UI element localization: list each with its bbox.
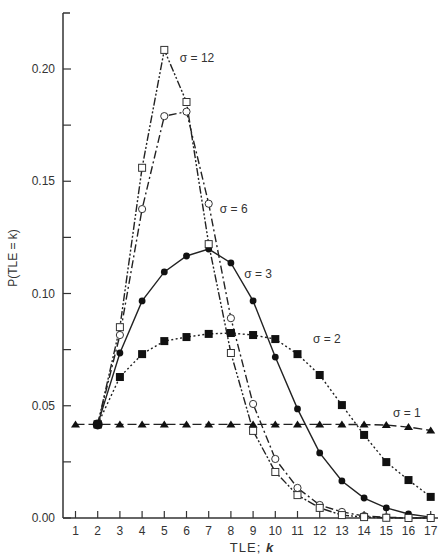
open-square-marker bbox=[294, 492, 301, 499]
series-line bbox=[98, 333, 431, 497]
square-marker bbox=[338, 401, 346, 409]
series-line bbox=[98, 249, 431, 517]
series-annotation: σ = 2 bbox=[313, 332, 341, 346]
series-annotation: σ = 6 bbox=[220, 202, 248, 216]
y-tick-label: 0.00 bbox=[32, 511, 56, 525]
open-circle-marker bbox=[139, 205, 146, 212]
dot-marker bbox=[272, 354, 279, 361]
open-square-marker bbox=[139, 164, 146, 171]
square-marker bbox=[160, 337, 168, 345]
dot-marker bbox=[183, 253, 190, 260]
x-tick-label: 11 bbox=[291, 524, 304, 538]
dot-marker bbox=[117, 350, 124, 357]
dot-marker bbox=[139, 298, 146, 305]
y-tick-label: 0.20 bbox=[32, 62, 56, 76]
series-line bbox=[98, 50, 431, 518]
x-tick-label: 12 bbox=[313, 524, 327, 538]
square-marker bbox=[116, 373, 124, 381]
open-square-marker bbox=[161, 46, 168, 53]
series-annotation: σ = 12 bbox=[180, 51, 215, 65]
open-square-marker bbox=[272, 468, 279, 475]
x-tick-label: 16 bbox=[402, 524, 416, 538]
x-tick-label: 17 bbox=[424, 524, 438, 538]
open-square-marker bbox=[116, 324, 123, 331]
open-square-marker bbox=[316, 504, 323, 511]
dot-marker bbox=[228, 260, 235, 267]
probability-chart: 0.000.050.100.150.2012345678910111213141… bbox=[0, 0, 445, 557]
series-markers bbox=[71, 46, 435, 521]
x-tick-label: 14 bbox=[357, 524, 371, 538]
square-marker bbox=[227, 329, 235, 337]
x-tick-label: 10 bbox=[269, 524, 283, 538]
x-axis-label: TLE; k bbox=[230, 540, 274, 555]
square-marker bbox=[183, 333, 191, 341]
open-square-marker bbox=[361, 514, 368, 521]
x-tick-label: 2 bbox=[94, 524, 101, 538]
square-marker bbox=[294, 350, 302, 358]
annotations: σ = 12σ = 6σ = 3σ = 2σ = 1 bbox=[180, 51, 421, 420]
square-marker bbox=[316, 371, 324, 379]
open-circle-marker bbox=[205, 200, 212, 207]
y-tick-label: 0.05 bbox=[32, 399, 56, 413]
series-annotation: σ = 1 bbox=[393, 406, 421, 420]
open-square-marker bbox=[205, 241, 212, 248]
y-axis-label: P(TLE = k) bbox=[6, 229, 20, 287]
x-tick-label: 4 bbox=[139, 524, 146, 538]
open-circle-marker bbox=[294, 484, 301, 491]
x-tick-label: 7 bbox=[205, 524, 212, 538]
common-start-point bbox=[93, 419, 103, 429]
open-square-marker bbox=[405, 515, 412, 522]
dot-marker bbox=[383, 504, 390, 511]
open-square-marker bbox=[183, 99, 190, 106]
x-tick-label: 9 bbox=[250, 524, 257, 538]
dot-marker bbox=[294, 405, 301, 412]
open-circle-marker bbox=[272, 455, 279, 462]
open-square-marker bbox=[427, 515, 434, 522]
square-marker bbox=[205, 330, 213, 338]
open-circle-marker bbox=[250, 400, 257, 407]
square-marker bbox=[271, 335, 279, 343]
x-tick-label: 13 bbox=[335, 524, 349, 538]
open-square-marker bbox=[250, 427, 257, 434]
open-square-marker bbox=[338, 512, 345, 519]
x-tick-label: 1 bbox=[72, 524, 79, 538]
open-square-marker bbox=[383, 514, 390, 521]
x-tick-label: 5 bbox=[161, 524, 168, 538]
y-tick-label: 0.15 bbox=[32, 174, 56, 188]
square-marker bbox=[427, 493, 435, 501]
square-marker bbox=[138, 350, 146, 358]
dot-marker bbox=[316, 449, 323, 456]
dot-marker bbox=[250, 298, 257, 305]
x-tick-label: 8 bbox=[228, 524, 235, 538]
x-tick-label: 6 bbox=[183, 524, 190, 538]
series-annotation: σ = 3 bbox=[244, 267, 272, 281]
open-circle-marker bbox=[227, 315, 234, 322]
open-square-marker bbox=[227, 349, 234, 356]
axes: 0.000.050.100.150.2012345678910111213141… bbox=[32, 13, 438, 538]
open-circle-marker bbox=[161, 113, 168, 120]
square-marker bbox=[405, 476, 413, 484]
square-marker bbox=[249, 331, 257, 339]
open-circle-marker bbox=[116, 331, 123, 338]
dot-marker bbox=[361, 495, 368, 502]
open-circle-marker bbox=[183, 108, 190, 115]
dot-marker bbox=[339, 478, 346, 485]
x-tick-label: 15 bbox=[380, 524, 394, 538]
dot-marker bbox=[161, 269, 168, 276]
x-tick-label: 3 bbox=[117, 524, 124, 538]
square-marker bbox=[382, 458, 390, 466]
square-marker bbox=[360, 431, 368, 439]
y-tick-label: 0.10 bbox=[32, 287, 56, 301]
series-line bbox=[98, 112, 431, 518]
series-lines bbox=[76, 50, 431, 518]
